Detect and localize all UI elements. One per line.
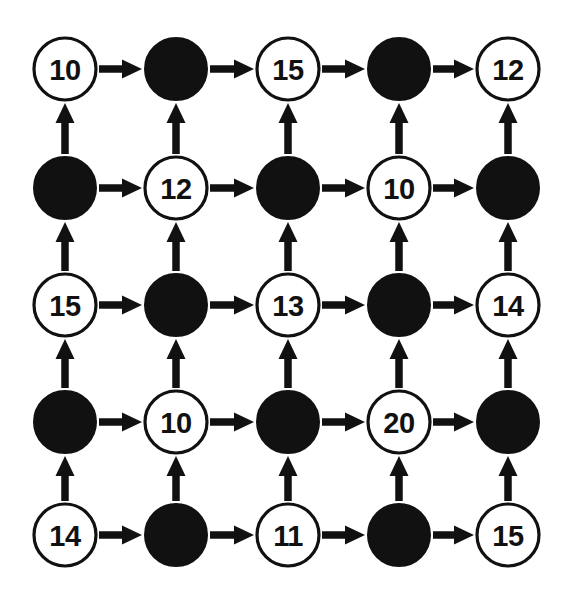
node-r5c1[interactable]: 14 bbox=[34, 504, 96, 566]
edge-right-r2c2 bbox=[210, 179, 254, 198]
edge-up-r4c4-arrowhead-icon bbox=[390, 339, 409, 359]
node-label: 12 bbox=[492, 54, 523, 86]
edge-right-r1c3 bbox=[322, 60, 365, 79]
node-label: 15 bbox=[492, 520, 524, 552]
edge-up-r5c5-arrowhead-icon bbox=[499, 456, 518, 476]
edge-right-r4c4 bbox=[433, 413, 474, 432]
edge-right-r3c2 bbox=[210, 296, 254, 315]
edge-up-r5c5 bbox=[499, 456, 518, 501]
node-r1c1[interactable]: 10 bbox=[34, 38, 96, 100]
edge-right-r4c1 bbox=[99, 413, 142, 432]
edge-right-r5c1-arrowhead-icon bbox=[122, 526, 142, 545]
edge-up-r4c1-arrowhead-icon bbox=[56, 339, 75, 359]
edge-right-r3c4 bbox=[433, 296, 474, 315]
edge-up-r2c4 bbox=[390, 103, 409, 154]
edge-up-r4c1 bbox=[56, 339, 75, 388]
node-label: 14 bbox=[49, 520, 81, 552]
edge-right-r3c2-arrowhead-icon bbox=[234, 296, 254, 315]
edge-up-r5c4-arrowhead-icon bbox=[390, 456, 409, 476]
edge-up-r4c5-arrowhead-icon bbox=[499, 339, 518, 359]
node-label: 12 bbox=[160, 173, 191, 205]
edge-right-r2c2-arrowhead-icon bbox=[234, 179, 254, 198]
node-marker-filled[interactable] bbox=[34, 391, 96, 453]
grid-graph-svg: 10151212101513141020141115 bbox=[0, 0, 580, 601]
node-r2c1[interactable] bbox=[34, 157, 96, 219]
edge-up-r3c4 bbox=[390, 222, 409, 271]
edge-up-r4c5 bbox=[499, 339, 518, 388]
node-r2c3[interactable] bbox=[257, 157, 319, 219]
node-r3c3[interactable]: 13 bbox=[257, 274, 319, 336]
edge-right-r3c1 bbox=[99, 296, 142, 315]
edge-right-r1c1 bbox=[99, 60, 142, 79]
node-r3c5[interactable]: 14 bbox=[477, 274, 539, 336]
node-r4c5[interactable] bbox=[477, 391, 539, 453]
edge-right-r4c3-arrowhead-icon bbox=[345, 413, 365, 432]
node-label: 13 bbox=[272, 290, 304, 322]
node-label: 10 bbox=[49, 54, 80, 86]
node-r4c3[interactable] bbox=[257, 391, 319, 453]
node-marker-filled[interactable] bbox=[368, 38, 430, 100]
edge-right-r2c3 bbox=[322, 179, 365, 198]
edge-right-r1c3-arrowhead-icon bbox=[345, 60, 365, 79]
node-marker-filled[interactable] bbox=[257, 157, 319, 219]
edge-up-r3c3 bbox=[279, 222, 298, 271]
node-label: 15 bbox=[49, 290, 81, 322]
edge-right-r1c2 bbox=[210, 60, 254, 79]
node-r1c5[interactable]: 12 bbox=[477, 38, 539, 100]
node-r3c4[interactable] bbox=[368, 274, 430, 336]
node-marker-filled[interactable] bbox=[368, 274, 430, 336]
edge-right-r4c1-arrowhead-icon bbox=[122, 413, 142, 432]
node-marker-filled[interactable] bbox=[145, 274, 207, 336]
node-marker-filled[interactable] bbox=[368, 504, 430, 566]
edge-up-r5c2 bbox=[167, 456, 186, 501]
node-marker-filled[interactable] bbox=[477, 157, 539, 219]
node-r1c4[interactable] bbox=[368, 38, 430, 100]
edge-up-r5c1 bbox=[56, 456, 75, 501]
node-r5c3[interactable]: 11 bbox=[257, 504, 319, 566]
edge-right-r3c3-arrowhead-icon bbox=[345, 296, 365, 315]
edge-right-r2c4 bbox=[433, 179, 474, 198]
edge-up-r4c3 bbox=[279, 339, 298, 388]
diagram-canvas: 10151212101513141020141115 bbox=[0, 0, 580, 601]
edge-up-r5c1-arrowhead-icon bbox=[56, 456, 75, 476]
node-r4c4[interactable]: 20 bbox=[368, 391, 430, 453]
node-r5c2[interactable] bbox=[145, 504, 207, 566]
node-label: 20 bbox=[383, 407, 414, 439]
edge-right-r4c2-arrowhead-icon bbox=[234, 413, 254, 432]
edge-up-r4c2 bbox=[167, 339, 186, 388]
node-marker-filled[interactable] bbox=[257, 391, 319, 453]
edge-up-r5c3-arrowhead-icon bbox=[279, 456, 298, 476]
edge-right-r2c1-arrowhead-icon bbox=[122, 179, 142, 198]
node-r5c4[interactable] bbox=[368, 504, 430, 566]
node-r1c2[interactable] bbox=[145, 38, 207, 100]
edge-right-r4c4-arrowhead-icon bbox=[454, 413, 474, 432]
edge-right-r2c1 bbox=[99, 179, 142, 198]
edge-up-r5c4 bbox=[390, 456, 409, 501]
edge-up-r4c4 bbox=[390, 339, 409, 388]
node-marker-filled[interactable] bbox=[145, 38, 207, 100]
node-r5c5[interactable]: 15 bbox=[477, 504, 539, 566]
edge-right-r2c3-arrowhead-icon bbox=[345, 179, 365, 198]
edge-up-r4c3-arrowhead-icon bbox=[279, 339, 298, 359]
edge-right-r1c1-arrowhead-icon bbox=[122, 60, 142, 79]
node-marker-filled[interactable] bbox=[477, 391, 539, 453]
edge-right-r5c3-arrowhead-icon bbox=[345, 526, 365, 545]
node-r4c2[interactable]: 10 bbox=[145, 391, 207, 453]
node-r2c5[interactable] bbox=[477, 157, 539, 219]
node-marker-filled[interactable] bbox=[145, 504, 207, 566]
node-r3c1[interactable]: 15 bbox=[34, 274, 96, 336]
edge-right-r5c1 bbox=[99, 526, 142, 545]
edge-up-r2c1 bbox=[56, 103, 75, 154]
edge-right-r5c4 bbox=[433, 526, 474, 545]
node-r3c2[interactable] bbox=[145, 274, 207, 336]
node-marker-filled[interactable] bbox=[34, 157, 96, 219]
node-r4c1[interactable] bbox=[34, 391, 96, 453]
node-r1c3[interactable]: 15 bbox=[257, 38, 319, 100]
node-r2c2[interactable]: 12 bbox=[145, 157, 207, 219]
edge-up-r4c2-arrowhead-icon bbox=[167, 339, 186, 359]
edge-right-r1c4-arrowhead-icon bbox=[454, 60, 474, 79]
edge-up-r2c5 bbox=[499, 103, 518, 154]
node-r2c4[interactable]: 10 bbox=[368, 157, 430, 219]
edge-up-r2c2 bbox=[167, 103, 186, 154]
edge-right-r5c4-arrowhead-icon bbox=[454, 526, 474, 545]
